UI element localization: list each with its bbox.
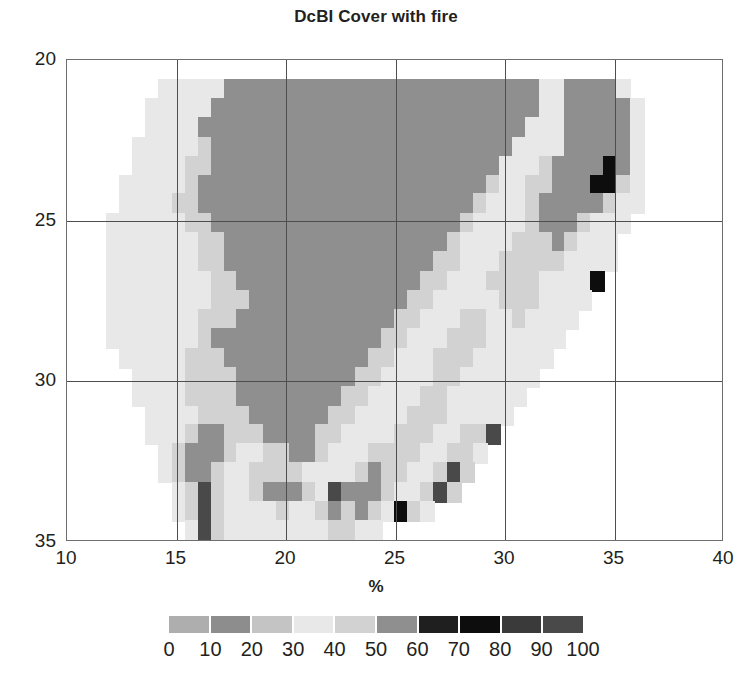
colorbar-segment-80-90 [502,616,542,633]
colorbar-segment-30-40 [294,616,334,633]
x-axis-label: % [0,577,752,597]
colorbar-tick-labels: 0102030405060708090100 [139,638,613,666]
x-tick-25: 25 [365,547,425,569]
y-tick-30: 30 [2,369,56,391]
colorbar-segment-60-70 [419,616,459,633]
colorbar-segment-90-100 [543,616,583,633]
colorbar-container [169,616,583,633]
colorbar-segment-50-60 [377,616,417,633]
x-tick-35: 35 [584,547,644,569]
x-tick-40: 40 [693,547,752,569]
y-tick-20: 20 [2,48,56,70]
colorbar-gradient [169,616,583,633]
colorbar-segment-40-50 [335,616,375,633]
gridline-horizontal [67,381,722,382]
gridline-vertical [396,60,397,540]
colorbar-segment-0-10 [169,616,209,633]
gridline-vertical [615,60,616,540]
gridline-vertical [505,60,506,540]
x-tick-10: 10 [36,547,96,569]
page-title: DcBI Cover with fire [0,7,752,27]
colorbar-segment-70-80 [460,616,500,633]
x-tick-30: 30 [474,547,534,569]
raster-heatmap [67,60,722,540]
gridline-vertical [177,60,178,540]
map-plot-area[interactable] [66,59,723,541]
colorbar-segment-20-30 [252,616,292,633]
gridline-vertical [286,60,287,540]
gridline-horizontal [67,221,722,222]
x-tick-20: 20 [255,547,315,569]
colorbar-tick-100: 100 [553,638,613,661]
colorbar-segment-10-20 [211,616,251,633]
y-tick-25: 25 [2,209,56,231]
x-tick-15: 15 [146,547,206,569]
figure-container: DcBI Cover with fire 20253035 1015202530… [0,0,752,688]
